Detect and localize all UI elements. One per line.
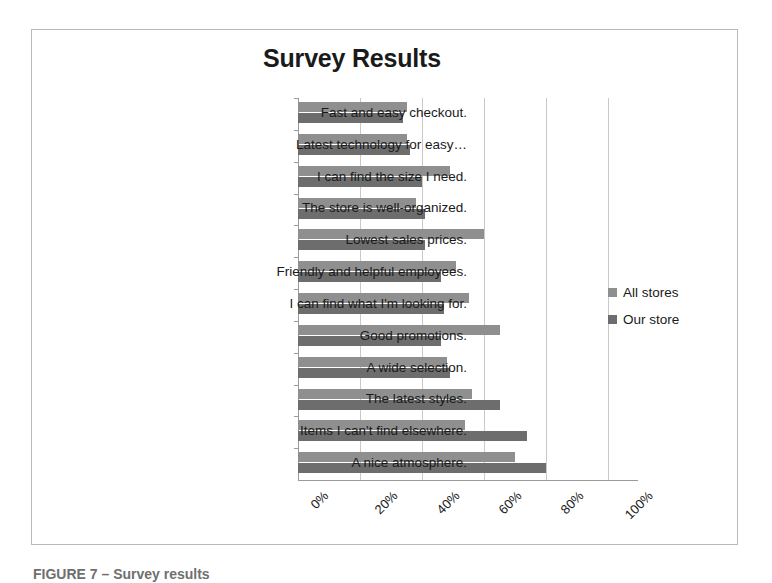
plot-area xyxy=(298,98,608,480)
x-axis-line xyxy=(298,480,638,481)
y-axis-tick xyxy=(294,98,298,99)
y-axis-tick xyxy=(294,162,298,163)
chart-legend: All storesOur store xyxy=(608,285,679,339)
category-label: I can find the size I need. xyxy=(217,170,467,184)
y-axis-tick xyxy=(294,448,298,449)
y-axis-tick xyxy=(294,225,298,226)
legend-label: All stores xyxy=(623,285,679,300)
x-axis-tick-label: 20% xyxy=(372,488,401,517)
y-axis-tick xyxy=(294,257,298,258)
chart-title: Survey Results xyxy=(32,44,672,73)
x-axis-tick-label: 80% xyxy=(558,488,587,517)
legend-swatch-icon xyxy=(608,288,617,297)
x-axis-tick-label: 100% xyxy=(622,488,656,522)
y-axis-tick xyxy=(294,194,298,195)
legend-label: Our store xyxy=(623,312,679,327)
legend-item: All stores xyxy=(608,285,679,300)
legend-item: Our store xyxy=(608,312,679,327)
category-label: A nice atmosphere. xyxy=(217,456,467,470)
category-label: I can find what I'm looking for. xyxy=(217,297,467,311)
category-label: Items I can't find elsewhere. xyxy=(217,424,467,438)
y-axis-tick xyxy=(294,353,298,354)
legend-swatch-icon xyxy=(608,315,617,324)
y-axis-tick xyxy=(294,416,298,417)
x-axis-tick-label: 0% xyxy=(308,488,332,512)
category-label: Good promotions. xyxy=(217,329,467,343)
y-axis-tick xyxy=(294,321,298,322)
category-label: A wide selection. xyxy=(217,361,467,375)
figure-caption: FIGURE 7 – Survey results xyxy=(33,566,210,583)
category-label: Friendly and helpful employees. xyxy=(217,265,467,279)
x-axis-tick-label: 40% xyxy=(434,488,463,517)
x-axis-tick-label: 60% xyxy=(496,488,525,517)
category-label: Latest technology for easy… xyxy=(217,138,467,152)
category-label: Fast and easy checkout. xyxy=(217,106,467,120)
y-axis-tick xyxy=(294,289,298,290)
category-label: The store is well-organized. xyxy=(217,201,467,215)
category-label: Lowest sales prices. xyxy=(217,233,467,247)
y-axis-tick xyxy=(294,385,298,386)
y-axis-tick xyxy=(294,130,298,131)
category-label: The latest styles. xyxy=(217,392,467,406)
